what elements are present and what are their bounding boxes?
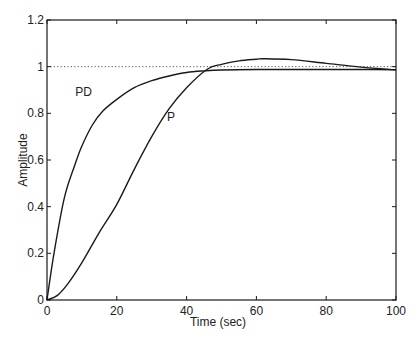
x-tick-label: 60	[250, 304, 264, 318]
x-tick-label: 20	[110, 304, 124, 318]
y-tick-label: 0.2	[27, 246, 44, 260]
y-tick-label: 1	[37, 60, 44, 74]
series-line-pd	[47, 69, 396, 300]
annotations: PDP	[75, 85, 175, 124]
curve-label-pd: PD	[75, 85, 92, 99]
y-tick-label: 0	[37, 293, 44, 307]
axes-frame	[47, 20, 396, 300]
y-tick-label: 1.2	[27, 13, 44, 27]
x-tick-label: 80	[320, 304, 334, 318]
y-tick-label: 0.8	[27, 106, 44, 120]
y-tick-label: 0.4	[27, 200, 44, 214]
step-response-chart: 02040608010000.20.40.60.811.2 PDP Time (…	[0, 0, 420, 345]
axis-ticks: 02040608010000.20.40.60.811.2	[27, 13, 406, 318]
axes-box	[47, 20, 396, 300]
x-tick-label: 0	[44, 304, 51, 318]
series-line-p	[47, 59, 396, 300]
curve-label-p: P	[167, 110, 175, 124]
y-axis-label: Amplitude	[16, 133, 30, 187]
x-axis-label: Time (sec)	[190, 315, 246, 329]
x-tick-label: 100	[386, 304, 406, 318]
series-lines	[47, 59, 396, 300]
